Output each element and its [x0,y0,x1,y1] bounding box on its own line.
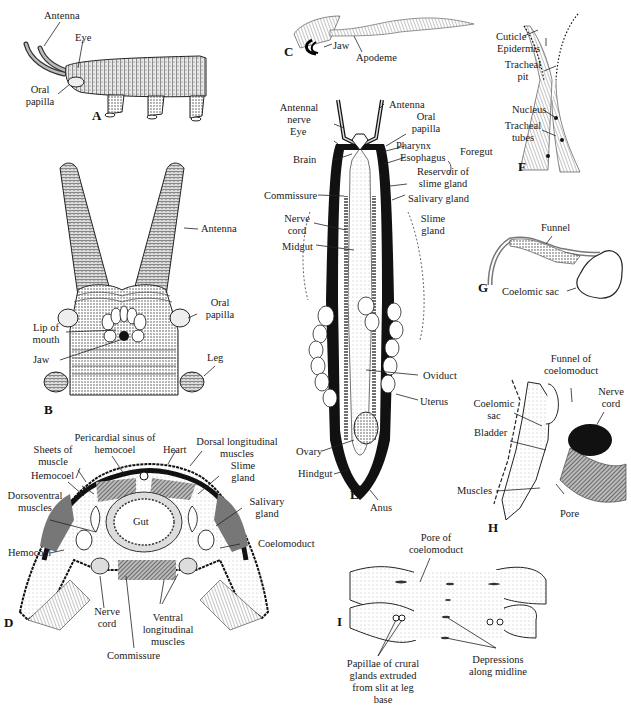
panel-f-drawing [520,14,580,172]
label-d-ventral-longitudinal-muscles: Ventral longitudinal muscles [136,612,200,648]
label-a-oral-papilla: Oral papilla [22,84,58,108]
label-i-papillae: Papillae of crural glands extruded from … [345,658,421,706]
panel-letter-e: E [350,487,359,503]
label-b-jaw: Jaw [33,354,49,366]
label-e-reservoir-slime-gland: Reservoir of slime gland [408,166,478,190]
label-d-hemocoel-upper: Hemocoel [31,470,74,482]
label-f-epidermis: Epidermis [497,43,540,55]
label-d-coelomoduct: Coelomoduct [258,538,315,550]
label-d-commissure: Commissure [107,650,160,662]
label-e-antenna: Antenna [389,99,425,111]
label-d-sheets-of-muscle: Sheets of muscle [30,444,76,468]
panel-letter-b: B [44,402,53,418]
label-e-pharynx: Pharynx [396,140,431,152]
label-i-pore-of-coelomoduct: Pore of coelomoduct [404,532,468,556]
label-d-slime-gland: Slime gland [226,460,260,484]
label-h-bladder: Bladder [474,427,507,439]
label-h-pore: Pore [560,508,579,520]
panel-letter-f: F [518,159,526,175]
label-g-coelomic-sac: Coelomic sac [502,286,559,298]
label-d-dorsal-longitudinal-muscles: Dorsal longitudinal muscles [192,436,282,460]
label-f-tracheal-tubes: Tracheal tubes [502,120,544,144]
label-e-uterus: Uterus [420,396,448,408]
label-f-cuticle: Cuticle [496,31,526,43]
label-h-nerve-cord: Nerve cord [594,386,628,410]
label-b-antenna: Antenna [201,223,237,235]
panel-letter-c: C [284,44,293,60]
label-a-eye: Eye [75,32,91,44]
label-i-depressions: Depressions along midline [466,654,530,678]
panel-c-drawing [294,16,474,54]
label-h-muscles: Muscles [457,485,492,497]
label-e-foregut: Foregut [460,146,493,158]
panel-letter-i: I [337,614,342,630]
panel-letter-g: G [478,280,488,296]
label-e-oviduct: Oviduct [423,370,457,382]
label-c-jaw: Jaw [333,40,349,52]
label-e-nerve-cord: Nerve cord [280,213,314,237]
panel-letter-d: D [4,615,13,631]
label-b-leg: Leg [207,352,223,364]
label-d-gut: Gut [133,516,149,528]
label-f-tracheal-pit: Tracheal pit [502,59,544,83]
label-h-funnel-of-coelomoduct: Funnel of coelomoduct [542,353,600,377]
label-e-ovary: Ovary [296,446,322,458]
label-d-salivary-gland: Salivary gland [246,496,288,520]
label-e-anus: Anus [370,502,392,514]
label-e-eye: Eye [290,126,306,138]
label-d-hemocoel-lower: Hemocoel [8,547,51,559]
label-e-midgut: Midgut [282,241,313,253]
label-g-funnel: Funnel [541,222,570,234]
label-a-antenna: Antenna [44,10,80,22]
label-e-slime-gland: Slime gland [416,213,450,237]
label-d-pericardial-sinus: Pericardial sinus of hemocoel [72,432,158,456]
label-e-salivary-gland: Salivary gland [408,193,469,205]
label-b-oral-papilla: Oral papilla [198,297,242,321]
label-f-nucleus: Nucleus [512,104,546,116]
label-b-lip-of-mouth: Lip of mouth [24,322,68,346]
label-e-esophagus: Esophagus [400,152,446,164]
label-e-antennal-nerve: Antennal nerve [276,102,322,126]
panel-b-drawing [44,163,215,395]
panel-letter-h: H [488,520,498,536]
label-d-nerve-cord: Nerve cord [90,606,124,630]
panel-i-drawing [350,558,546,656]
label-h-coelomic-sac: Coelomic sac [472,398,516,422]
label-e-brain: Brain [293,154,316,166]
panel-letter-a: A [92,108,101,124]
label-e-commissure: Commissure [264,190,317,202]
label-c-apodeme: Apodeme [356,52,397,64]
label-e-oral-papilla: Oral papilla [408,111,444,135]
label-d-dorsoventral-muscles: Dorsoventral muscles [4,490,66,514]
label-d-heart: Heart [163,444,186,456]
label-e-hindgut: Hindgut [298,468,332,480]
